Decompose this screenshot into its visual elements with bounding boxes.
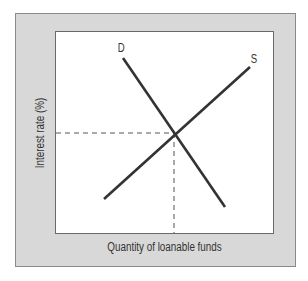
demand-curve-label: D [118, 41, 125, 55]
supply-curve [104, 67, 250, 199]
x-axis-label: Quantity of loanable funds [75, 240, 255, 254]
supply-curve-label: S [251, 52, 257, 66]
y-axis-label: Interest rate (%) [33, 98, 47, 169]
